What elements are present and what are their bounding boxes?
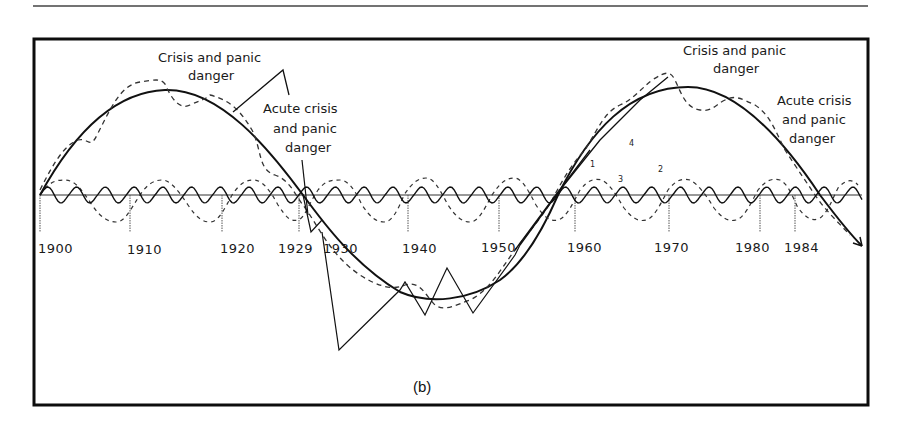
svg-text:and panic: and panic [273,121,337,136]
curve-number-3: 3 [618,175,623,184]
svg-text:danger: danger [789,131,836,146]
tick-label-1960: 1960 [567,240,602,255]
tick-label-1929: 1929 [278,241,313,256]
tick-label-1970: 1970 [654,240,689,255]
svg-text:Acute crisis: Acute crisis [777,93,852,108]
svg-text:danger: danger [285,140,332,155]
svg-text:danger: danger [188,68,235,83]
curve-number-2: 2 [658,165,663,174]
panel-label: (b) [413,378,431,395]
actual-zigzag-line [303,195,520,350]
annotation-right-acute: Acute crisis and panic danger [777,93,852,146]
chart-frame [34,39,868,405]
curve-number-1: 1 [590,160,595,169]
annotation-left-crisis: Crisis and panic danger [158,50,261,83]
svg-text:Crisis and panic: Crisis and panic [683,43,786,58]
svg-text:danger: danger [713,61,760,76]
svg-text:and panic: and panic [782,112,846,127]
annotation-left-acute: Acute crisis and panic danger [263,101,338,155]
svg-text:Crisis and panic: Crisis and panic [158,50,261,65]
long-wave-curve [40,87,862,299]
tick-label-1920: 1920 [220,241,255,256]
tick-label-1940: 1940 [402,241,437,256]
x-ticks [40,195,795,232]
x-tick-labels: 1900 1910 1920 1929 1930 1940 1950 1960 … [38,240,819,257]
medium-cycle-dashed [40,178,858,222]
svg-text:Acute crisis: Acute crisis [263,101,338,116]
tick-label-1900: 1900 [38,241,73,256]
annotation-right-crisis: Crisis and panic danger [683,43,786,76]
kondratieff-chart: 1900 1910 1920 1929 1930 1940 1950 1960 … [0,0,901,428]
tick-label-1984: 1984 [784,240,819,255]
curve-number-4: 4 [629,139,634,148]
rising-trend-line-2 [515,150,590,250]
tick-label-1950: 1950 [481,240,516,255]
tick-label-1910: 1910 [127,242,162,257]
tick-label-1980: 1980 [735,240,770,255]
